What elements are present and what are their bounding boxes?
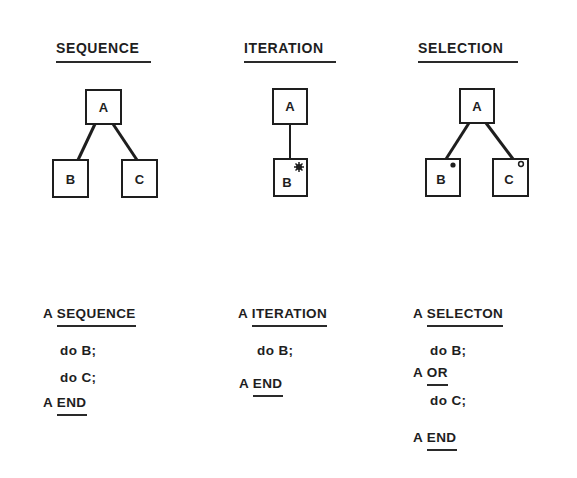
iteration-code-line: do B; xyxy=(257,343,294,358)
sequence-code-open: A SEQUENCE xyxy=(43,306,136,321)
code-prefix: A xyxy=(239,376,249,391)
sequence-code-line: do B; xyxy=(60,343,97,358)
code-prefix: A xyxy=(413,430,423,445)
code-keyword: END xyxy=(427,430,457,445)
code-prefix: A xyxy=(43,306,53,321)
code-keyword: END xyxy=(253,376,283,391)
iteration-code-close: A END xyxy=(239,376,283,391)
code-prefix: A xyxy=(413,306,423,321)
node-a-label: A xyxy=(99,100,109,115)
code-prefix: A xyxy=(238,306,248,321)
selection-code-or: A OR xyxy=(413,365,448,380)
selection-diagram: A B C xyxy=(426,89,528,196)
edge-a-c xyxy=(486,123,513,159)
node-b-label: B xyxy=(436,172,445,187)
node-a-label: A xyxy=(285,99,295,114)
circle-marker-icon xyxy=(519,162,524,167)
code-keyword: OR xyxy=(427,365,448,380)
code-keyword: SELECTON xyxy=(427,306,503,321)
edge-a-b xyxy=(446,123,469,159)
node-b-label: B xyxy=(282,175,291,190)
iteration-code-open: A ITERATION xyxy=(238,306,327,321)
selection-code-open: A SELECTON xyxy=(413,306,503,321)
circle-marker-icon xyxy=(450,162,455,167)
code-keyword: END xyxy=(57,395,87,410)
node-c-label: C xyxy=(504,172,514,187)
node-b-label: B xyxy=(66,172,75,187)
asterisk-marker-icon xyxy=(294,162,304,172)
selection-code-close: A END xyxy=(413,430,457,445)
edge-a-c xyxy=(113,124,137,160)
edge-a-b xyxy=(78,124,95,160)
structure-diagrams: A B C A B A B C xyxy=(0,0,577,478)
code-keyword: SEQUENCE xyxy=(57,306,136,321)
code-prefix: A xyxy=(43,395,53,410)
code-prefix: A xyxy=(413,365,423,380)
sequence-code-line: do C; xyxy=(60,370,97,385)
iteration-diagram: A B xyxy=(273,89,307,196)
selection-code-line: do B; xyxy=(430,343,467,358)
node-c-label: C xyxy=(135,172,145,187)
code-keyword: ITERATION xyxy=(252,306,327,321)
sequence-code-close: A END xyxy=(43,395,87,410)
selection-code-line: do C; xyxy=(430,393,467,408)
sequence-diagram: A B C xyxy=(53,90,157,197)
node-a-label: A xyxy=(472,99,482,114)
